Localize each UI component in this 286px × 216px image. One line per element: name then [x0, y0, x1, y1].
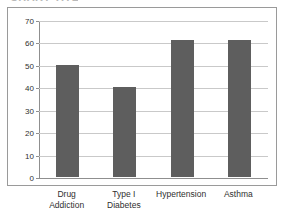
category-label-line: Asthma: [193, 189, 283, 200]
y-tick-label-40: 40: [25, 84, 34, 93]
plot-area: 010203040506070: [39, 21, 268, 178]
gridline-0: [39, 178, 268, 179]
y-tick-mark-70: [36, 21, 39, 22]
y-axis-line: [39, 21, 40, 178]
clipped-title-text: CHART TITLE: [10, 0, 78, 3]
y-tick-mark-20: [36, 133, 39, 134]
y-tick-mark-50: [36, 66, 39, 67]
bar: [113, 87, 136, 177]
y-tick-label-60: 60: [25, 39, 34, 48]
y-tick-label-0: 0: [30, 174, 34, 183]
y-tick-mark-10: [36, 156, 39, 157]
gridline-70: [39, 21, 268, 22]
y-tick-mark-0: [36, 178, 39, 179]
bar: [228, 40, 251, 177]
chart-frame: 010203040506070: [7, 7, 277, 186]
clipped-title-remnant: CHART TITLE: [10, 0, 78, 4]
bar: [56, 65, 79, 177]
bar: [171, 40, 194, 177]
y-tick-mark-40: [36, 88, 39, 89]
y-tick-label-20: 20: [25, 129, 34, 138]
y-tick-label-30: 30: [25, 106, 34, 115]
y-tick-label-10: 10: [25, 151, 34, 160]
category-label: Asthma: [193, 189, 283, 200]
y-tick-label-50: 50: [25, 61, 34, 70]
y-tick-mark-30: [36, 111, 39, 112]
category-label-line: Diabetes: [79, 200, 169, 211]
y-tick-label-70: 70: [25, 17, 34, 26]
category-axis-labels: DrugAddictionType IDiabetesHypertensionA…: [38, 189, 278, 216]
y-tick-mark-60: [36, 43, 39, 44]
